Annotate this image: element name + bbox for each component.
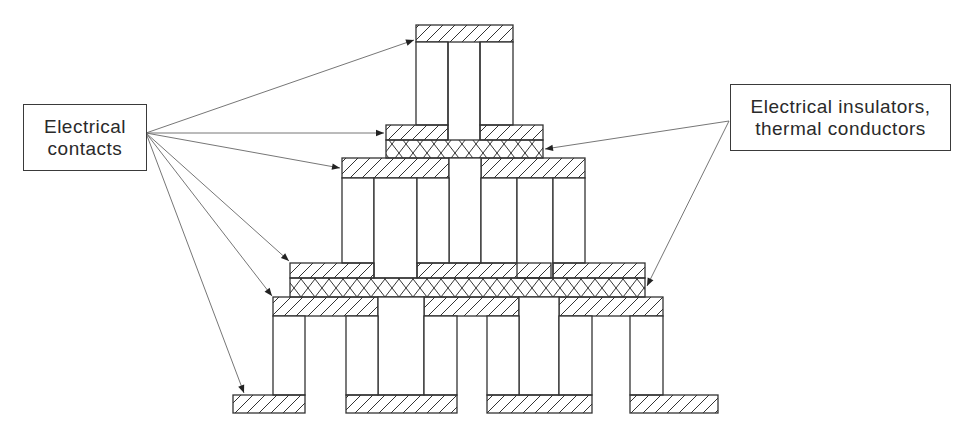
contact-foot-1 [233,395,305,413]
element-bot-1 [273,316,305,395]
label-contacts-line2: contacts [48,138,123,160]
element-bot-4 [487,316,519,395]
thermoelectric-stack-diagram [0,0,963,430]
element-l5-gap-2 [519,297,559,395]
label-electrical-insulators: Electrical insulators, thermal conductor… [730,84,951,151]
contact-l2-left [386,125,448,140]
contact-foot-3 [487,395,592,413]
insulator-upper [386,140,543,158]
element-mid-6 [553,178,585,263]
element-bot-6 [630,316,663,395]
contact-l5-center [424,297,519,316]
contact-foot-4 [630,395,718,413]
element-bot-3 [424,316,457,395]
contact-l3-right [481,158,585,178]
contact-l4-left [290,263,374,278]
element-l5-gap-1 [378,297,424,395]
contact-top-cap [416,25,513,42]
element-mid-1 [342,178,374,263]
contact-l4-right [553,263,645,278]
label-insulators-line1: Electrical insulators, [751,96,931,118]
element-mid-4 [481,178,517,263]
element-top-right [480,42,513,125]
element-bot-5 [559,316,592,395]
contact-l2-right [480,125,543,140]
element-mid-2 [374,178,417,278]
element-mid-3 [417,178,449,263]
element-bot-2 [346,316,378,395]
insulator-lower [290,278,645,297]
label-electrical-contacts: Electrical contacts [23,104,147,171]
label-insulators-line2: thermal conductors [755,118,926,140]
contact-l5-right [559,297,663,316]
label-contacts-line1: Electrical [44,116,126,138]
contact-l3-left [342,158,449,178]
element-l3-center-gap [449,158,481,263]
contact-l4-center [417,263,551,278]
element-top-left [416,42,448,125]
contact-l5-left [273,297,378,316]
contact-foot-2 [346,395,457,413]
